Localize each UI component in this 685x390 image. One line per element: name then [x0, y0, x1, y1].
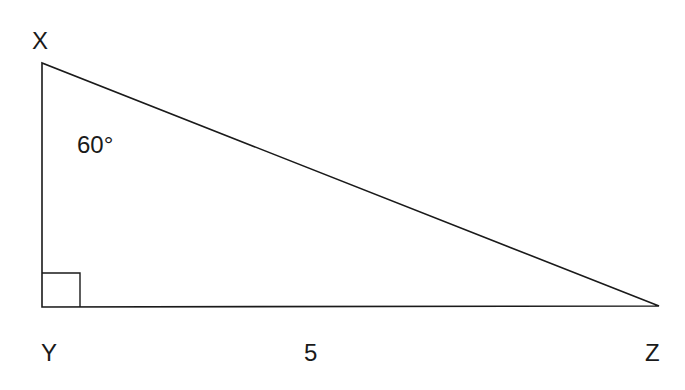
- side-label-yz: 5: [304, 339, 317, 366]
- vertex-label-z: Z: [645, 339, 660, 366]
- triangle-xyz: [42, 63, 659, 307]
- right-angle-marker: [42, 273, 80, 307]
- triangle-diagram: X Y Z 60° 5: [0, 0, 685, 390]
- vertex-label-y: Y: [41, 339, 57, 366]
- vertex-label-x: X: [32, 27, 48, 54]
- angle-label-x: 60°: [77, 131, 113, 158]
